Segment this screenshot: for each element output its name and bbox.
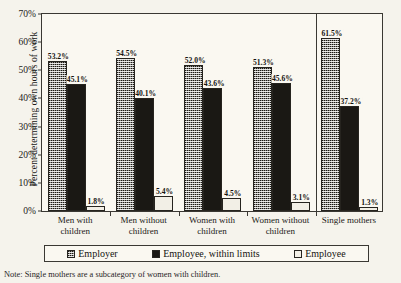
bar: 51.3% (253, 67, 272, 211)
legend-item-label: Employee (305, 248, 346, 259)
plot-inner: 0%10%20%30%40%50%60%70%53.2%45.1%1.8%54.… (42, 14, 382, 211)
x-axis-category-label-line1: Women with (189, 215, 235, 225)
legend-item: Employer (67, 248, 117, 259)
x-axis-category-label-line1: Men with (58, 215, 93, 225)
legend-item: Employee, within limits (152, 248, 259, 259)
bar: 4.5% (222, 198, 241, 211)
bar-group: 54.5%40.1%5.4% (110, 14, 178, 211)
y-axis-tick-label: 50% (19, 65, 42, 75)
y-axis-tick-label: 70% (19, 9, 42, 19)
single-mothers-divider (316, 14, 317, 211)
bar: 40.1% (135, 98, 154, 211)
x-axis-category-label-line2: children (109, 226, 177, 237)
bar-value-label: 3.1% (292, 193, 310, 202)
bar-value-label: 1.3% (361, 198, 379, 207)
bar-value-label: 52.0% (184, 56, 206, 65)
bar-value-label: 61.5% (321, 29, 343, 38)
bar: 52.0% (184, 65, 203, 211)
bar-group: 52.0%43.6%4.5% (179, 14, 247, 211)
bar: 3.1% (291, 202, 310, 211)
bar: 37.2% (340, 106, 359, 211)
bar: 1.8% (86, 206, 105, 211)
x-axis-category-label: Men withchildren (41, 215, 109, 236)
bar: 61.5% (321, 38, 340, 211)
plot-area: 0%10%20%30%40%50%60%70%53.2%45.1%1.8%54.… (41, 13, 383, 212)
bar-group: 53.2%45.1%1.8% (42, 14, 110, 211)
bar-value-label: 4.5% (224, 189, 242, 198)
legend-item: Employee (294, 248, 346, 259)
bar-value-label: 54.5% (116, 49, 138, 58)
bar-group: 61.5%37.2%1.3% (316, 14, 384, 211)
bar-group: 51.3%45.6%3.1% (247, 14, 315, 211)
bar-group-bars: 51.3%45.6%3.1% (247, 14, 315, 211)
x-axis-category-label-line2: children (41, 226, 109, 237)
bar-value-label: 5.4% (155, 187, 173, 196)
x-axis-category-label: Women withchildren (178, 215, 246, 236)
y-axis-tick-label: 60% (19, 37, 42, 47)
bar-group-bars: 52.0%43.6%4.5% (179, 14, 247, 211)
x-axis-category-label: Single mothers (315, 215, 383, 226)
bar: 45.6% (272, 83, 291, 211)
x-axis-category-label-line1: Women without (252, 215, 310, 225)
chart-figure: Percent determining own hours of work 0%… (0, 0, 401, 283)
legend-item-label: Employer (78, 248, 117, 259)
x-axis-category-label-line1: Single mothers (322, 215, 376, 225)
y-axis-tick-label: 0% (23, 206, 42, 216)
x-axis-category-label-line2: children (246, 226, 314, 237)
figure-note: Note: Single mothers are a subcategory o… (4, 270, 220, 279)
bar: 5.4% (154, 196, 173, 211)
y-axis-tick-label: 10% (19, 178, 42, 188)
bar-group-bars: 54.5%40.1%5.4% (110, 14, 178, 211)
x-axis-category-label-line2: children (178, 226, 246, 237)
y-axis-tick-label: 30% (19, 122, 42, 132)
bar-value-label: 45.1% (66, 75, 88, 84)
x-axis-category-label: Men withoutchildren (109, 215, 177, 236)
y-axis-tick-label: 40% (19, 93, 42, 103)
bar-value-label: 40.1% (135, 89, 157, 98)
bar-value-label: 51.3% (253, 58, 275, 67)
legend-item-label: Employee, within limits (163, 248, 259, 259)
chart-legend: EmployerEmployee, within limitsEmployee (44, 245, 369, 262)
x-axis-category-label-line1: Men without (120, 215, 166, 225)
bar-value-label: 37.2% (340, 97, 362, 106)
employee-within-limits-swatch (152, 250, 160, 258)
bar: 45.1% (67, 84, 86, 211)
bar-value-label: 45.6% (272, 74, 294, 83)
bar-group-bars: 61.5%37.2%1.3% (316, 14, 384, 211)
bar: 53.2% (48, 61, 67, 211)
bar-group-bars: 53.2%45.1%1.8% (42, 14, 110, 211)
bar-value-label: 1.8% (87, 197, 105, 206)
bar: 1.3% (359, 207, 378, 211)
bar: 43.6% (203, 88, 222, 211)
employer-swatch (67, 250, 75, 258)
x-axis-category-label: Women withoutchildren (246, 215, 314, 236)
bar-value-label: 53.2% (47, 52, 69, 61)
bar-value-label: 43.6% (203, 79, 225, 88)
bar: 54.5% (116, 58, 135, 211)
y-axis-tick-label: 20% (19, 150, 42, 160)
employee-swatch (294, 250, 302, 258)
